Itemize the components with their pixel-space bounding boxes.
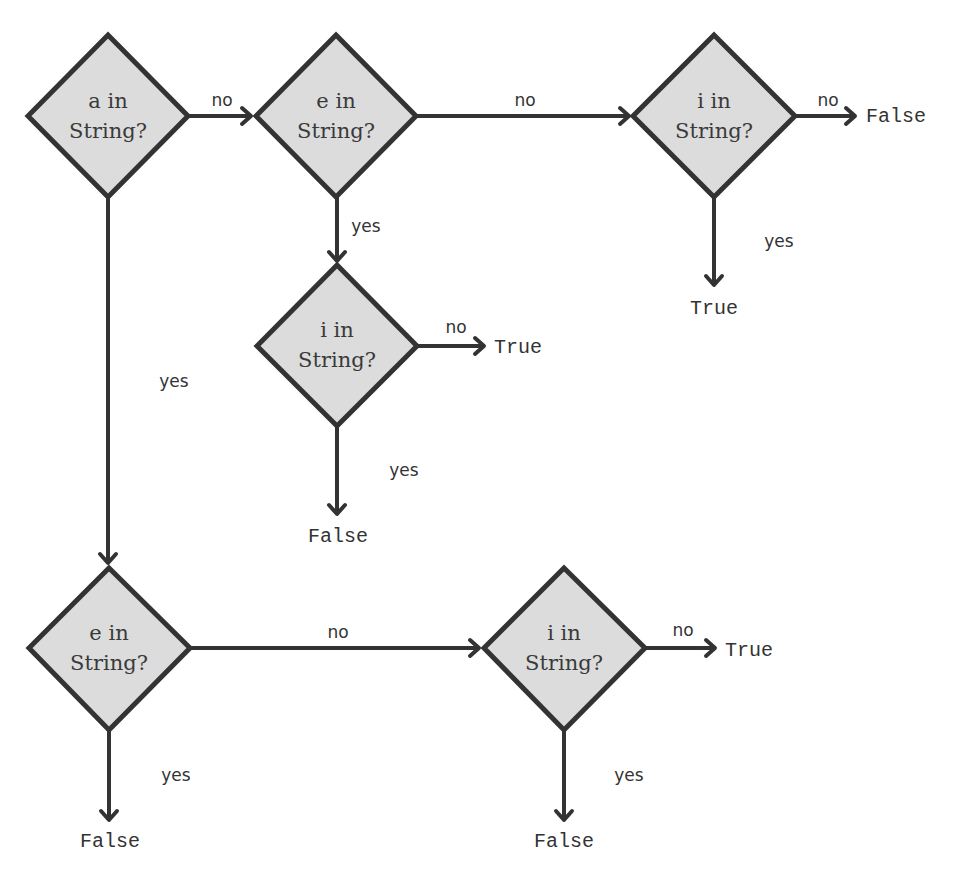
terminal-true: True [690, 297, 738, 320]
node-label-line2: String? [70, 651, 148, 675]
node-label-line2: String? [675, 119, 753, 143]
terminal-false: False [80, 830, 140, 853]
edge-label: no [514, 90, 535, 110]
diamond-shape [29, 568, 190, 730]
edge-label: yes [351, 216, 381, 236]
node-label-line2: String? [69, 119, 147, 143]
edge-label: no [817, 90, 838, 110]
decision-node-e-in-string-bottom: e in String? [29, 568, 190, 730]
edge-label: no [327, 622, 348, 642]
terminal-true: True [725, 639, 773, 662]
edge-n5-t5: yes [101, 730, 191, 820]
edge-n2-n3: no [415, 90, 629, 124]
decision-node-a-in-string: a in String? [28, 35, 188, 197]
node-label-line2: String? [525, 651, 603, 675]
diamond-shape [28, 35, 188, 197]
edge-label: yes [614, 765, 644, 785]
node-label-line1: e in [316, 89, 355, 113]
edge-label: no [445, 317, 466, 337]
terminal-false: False [534, 830, 594, 853]
edge-n3-t1: no [795, 90, 855, 124]
edge-label: no [211, 90, 232, 110]
edge-n3-t2: yes [706, 197, 794, 285]
edge-label: yes [389, 460, 419, 480]
node-label-line2: String? [298, 348, 376, 372]
node-label-line1: i in [697, 89, 731, 113]
edge-n2-n4: yes [329, 197, 381, 261]
terminal-true: True [494, 336, 542, 359]
node-label-line2: String? [297, 119, 375, 143]
flowchart: no no no yes yes no yes yes [0, 0, 961, 872]
terminal-false: False [308, 525, 368, 548]
edge-n4-t3: no [417, 317, 484, 354]
diamond-shape [633, 35, 795, 197]
decision-node-e-in-string-top: e in String? [256, 35, 416, 197]
edge-n6-t6: no [645, 620, 715, 656]
node-label-line1: a in [88, 89, 127, 113]
diamond-shape [484, 568, 645, 730]
diamond-shape [256, 35, 416, 197]
edge-label: yes [161, 765, 191, 785]
edge-n1-n2: no [188, 90, 251, 124]
edge-label: yes [764, 231, 794, 251]
decision-node-i-in-string-top-right: i in String? [633, 35, 795, 197]
edge-n1-n5: yes [100, 197, 189, 563]
diamond-shape [257, 265, 417, 426]
edge-n4-t4: yes [329, 426, 419, 514]
edge-label: yes [159, 371, 189, 391]
edge-label: no [672, 620, 693, 640]
node-label-line1: i in [320, 318, 354, 342]
node-label-line1: i in [547, 621, 581, 645]
node-label-line1: e in [89, 621, 128, 645]
decision-node-i-in-string-middle: i in String? [257, 265, 417, 426]
edge-n6-t7: yes [556, 730, 644, 820]
terminal-false: False [866, 105, 926, 128]
decision-node-i-in-string-bottom: i in String? [484, 568, 645, 730]
edge-n5-n6: no [190, 622, 479, 656]
